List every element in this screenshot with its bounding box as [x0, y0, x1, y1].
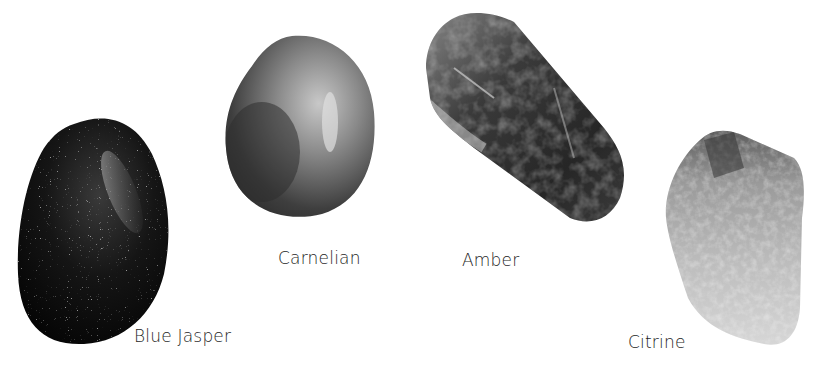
carnelian-stone	[222, 32, 378, 220]
amber-stone	[424, 8, 634, 228]
carnelian-label: Carnelian	[278, 248, 361, 268]
citrine-stone	[664, 128, 808, 350]
blue-jasper-stone	[14, 114, 170, 346]
amber-label: Amber	[462, 250, 519, 270]
carnelian-image	[222, 32, 378, 220]
blue-jasper-label: Blue Jasper	[134, 326, 231, 346]
citrine-image	[664, 128, 808, 350]
amber-image	[424, 8, 634, 228]
blue-jasper-image	[14, 114, 170, 346]
citrine-label: Citrine	[628, 332, 686, 352]
